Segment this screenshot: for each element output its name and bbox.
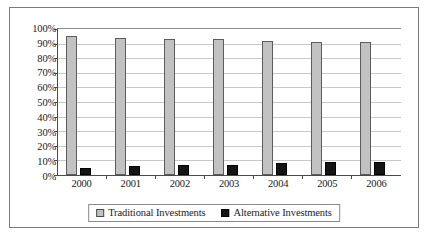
bar-alternative-2006 <box>374 162 385 175</box>
x-axis: 2000200120022003200420052006 <box>57 178 401 196</box>
chart-figure: 0%10%20%30%40%50%60%70%80%90%100% 200020… <box>9 7 419 228</box>
y-axis-tick-label: 100% <box>32 23 56 34</box>
bar-traditional-2004 <box>262 41 273 175</box>
bar-group-2006 <box>352 29 401 175</box>
plot-area <box>57 28 401 176</box>
bar-group-2004 <box>254 29 303 175</box>
bar-alternative-2005 <box>325 162 336 175</box>
chart-plot-wrapper: 0%10%20%30%40%50%60%70%80%90%100% 200020… <box>10 8 418 227</box>
bar-traditional-2006 <box>360 42 371 175</box>
bar-traditional-2005 <box>311 42 322 175</box>
legend-label: Alternative Investments <box>234 207 332 218</box>
bar-group-2003 <box>205 29 254 175</box>
y-axis-tick-label: 0% <box>42 171 56 182</box>
bar-alternative-2002 <box>178 165 189 175</box>
bar-alternative-2000 <box>80 168 91 175</box>
bar-group-2005 <box>303 29 352 175</box>
bar-group-2001 <box>107 29 156 175</box>
legend-label: Traditional Investments <box>108 207 205 218</box>
bar-traditional-2000 <box>66 36 77 175</box>
bar-traditional-2001 <box>115 38 126 175</box>
bar-alternative-2003 <box>227 165 238 175</box>
gray-square-icon <box>96 209 104 217</box>
bar-group-2002 <box>156 29 205 175</box>
y-axis: 0%10%20%30%40%50%60%70%80%90%100% <box>16 28 56 176</box>
chart-legend: Traditional InvestmentsAlternative Inves… <box>88 204 340 222</box>
bar-traditional-2003 <box>213 39 224 175</box>
bar-traditional-2002 <box>164 39 175 175</box>
bar-group-2000 <box>58 29 107 175</box>
bar-alternative-2004 <box>276 163 287 175</box>
x-axis-tick-label: 2005 <box>303 178 352 196</box>
x-axis-tick-label: 2001 <box>106 178 155 196</box>
bar-groups <box>58 29 401 175</box>
bar-alternative-2001 <box>129 166 140 175</box>
legend-entry-1[interactable]: Traditional Investments <box>96 207 205 218</box>
x-axis-tick-label: 2003 <box>204 178 253 196</box>
x-axis-tick-label: 2006 <box>352 178 401 196</box>
x-axis-tick-label: 2004 <box>254 178 303 196</box>
black-square-icon <box>222 209 230 217</box>
legend-entry-2[interactable]: Alternative Investments <box>222 207 332 218</box>
x-axis-tick-label: 2000 <box>57 178 106 196</box>
y-axis-tick-mark <box>54 175 58 176</box>
x-axis-tick-label: 2002 <box>155 178 204 196</box>
